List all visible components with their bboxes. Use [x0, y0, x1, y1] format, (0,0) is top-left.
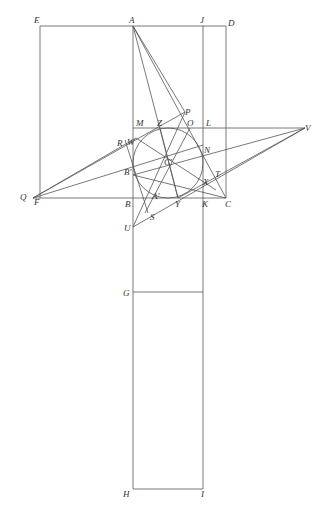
point-label-y: Y [175, 199, 181, 209]
point-label-x: X [202, 177, 209, 187]
point-label-n: N [203, 145, 211, 155]
point-label-b: B [125, 199, 131, 209]
point-label-l: L [205, 118, 211, 128]
point-label-v: V [305, 123, 312, 133]
line-V-Y [178, 128, 305, 198]
point-label-a: A [128, 15, 135, 25]
point-label-cp: C' [164, 157, 173, 167]
point-label-m: M [135, 118, 144, 128]
point-label-p: P [184, 107, 191, 117]
point-label-h: H [122, 489, 130, 499]
point-label-o: O [187, 118, 194, 128]
point-label-z: Z [157, 118, 163, 128]
point-label-e: E [33, 15, 40, 25]
point-label-i: I [200, 489, 205, 499]
point-label-q: Q [20, 192, 27, 202]
point-label-d: D [227, 18, 235, 28]
point-label-ap: A' [151, 191, 160, 201]
geometry-diagram: EAJDMZOLPVRWNB'C'TXQFBA'YKCUSGHI [0, 0, 328, 515]
point-label-c: C [225, 199, 232, 209]
line-A-P [133, 26, 185, 112]
point-label-r: R [116, 138, 123, 148]
point-label-bp: B' [124, 167, 132, 177]
point-label-u: U [124, 223, 131, 233]
point-label-f: F [33, 197, 40, 207]
line-V-Bp [133, 128, 305, 175]
line-A-C [133, 26, 226, 198]
construction-lines [33, 26, 305, 489]
point-label-j: J [200, 15, 205, 25]
line-Q-N [33, 145, 203, 198]
point-label-g: G [123, 288, 130, 298]
line-Bp-C [133, 175, 226, 198]
point-label-k: K [201, 199, 209, 209]
point-label-s: S [150, 212, 155, 222]
point-label-t: T [215, 169, 221, 179]
